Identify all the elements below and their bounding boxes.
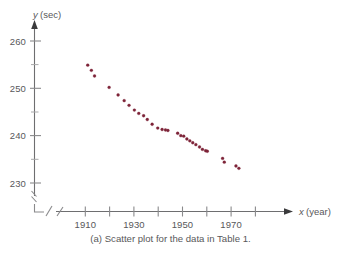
data-point (179, 134, 182, 137)
x-tick-label-1970: 1970 (220, 219, 242, 230)
data-point (108, 86, 111, 89)
data-point (221, 157, 224, 160)
x-tick-label-1950: 1950 (172, 219, 194, 230)
data-point (188, 139, 191, 142)
x-tick-label-1910: 1910 (75, 219, 97, 230)
data-point (133, 109, 136, 112)
data-point (128, 104, 131, 107)
x-axis-break-icon (46, 206, 52, 216)
data-point (237, 167, 240, 170)
y-axis-label-unit: (sec) (40, 9, 61, 20)
data-point (235, 165, 238, 168)
scatter-plot-figure: y (sec) 260 250 240 230 (0, 0, 341, 257)
data-point (201, 148, 204, 151)
data-point (156, 127, 159, 130)
data-point (185, 138, 188, 141)
data-point (206, 150, 209, 153)
data-point (166, 129, 169, 132)
y-tick-label-250: 250 (10, 83, 26, 94)
data-point (161, 128, 164, 131)
data-point (194, 143, 197, 146)
data-point (151, 123, 154, 126)
data-point (191, 141, 194, 144)
x-axis-label-variable: x (298, 206, 305, 217)
axis-corner-bracket (35, 204, 45, 212)
y-tick-label-260: 260 (10, 36, 26, 47)
data-point (198, 146, 201, 149)
x-axis-arrowhead (284, 208, 293, 215)
data-point (182, 135, 185, 138)
x-tick-label-1930: 1930 (123, 219, 145, 230)
data-points-layer (86, 64, 240, 170)
y-tick-label-230: 230 (10, 178, 26, 189)
y-tick-label-240: 240 (10, 130, 26, 141)
x-axis-label-unit: (year) (306, 206, 331, 217)
data-point (176, 132, 179, 135)
data-point (86, 64, 89, 67)
data-point (117, 94, 120, 97)
data-point (146, 118, 149, 121)
y-axis-label-variable: y (32, 9, 39, 20)
figure-caption: (a) Scatter plot for the data in Table 1… (0, 233, 341, 244)
data-point (142, 114, 145, 117)
data-point (93, 75, 96, 78)
y-axis-arrowhead (31, 20, 38, 29)
data-point (123, 99, 126, 102)
data-point (137, 112, 140, 115)
plot-canvas: y (sec) 260 250 240 230 (0, 0, 341, 257)
data-point (90, 69, 93, 72)
data-point (223, 161, 226, 164)
